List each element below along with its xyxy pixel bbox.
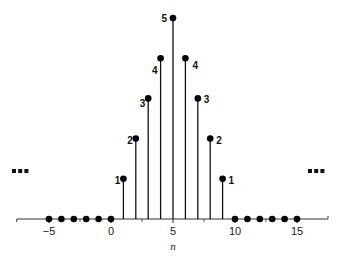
stem-marker	[257, 216, 264, 223]
x-axis-label: n	[170, 240, 176, 252]
value-label: 1	[229, 175, 235, 186]
stem-marker	[157, 55, 164, 62]
stem-marker	[133, 135, 140, 142]
x-tick-label: −5	[43, 225, 56, 237]
stem-marker	[269, 216, 276, 223]
stem-marker	[294, 216, 301, 223]
stem-marker	[195, 95, 202, 102]
stem-marker	[95, 216, 102, 223]
stem-marker	[108, 216, 115, 223]
ellipsis-dot	[18, 169, 22, 173]
stems	[46, 15, 301, 223]
stem-plot: −5051015 123454321 n	[0, 0, 338, 261]
stem-marker	[58, 216, 65, 223]
ellipsis-dot	[308, 169, 312, 173]
stem-marker	[244, 216, 251, 223]
stem-marker	[170, 15, 177, 22]
value-label: 3	[204, 94, 210, 105]
x-tick-label: 10	[229, 225, 241, 237]
stem-marker	[120, 176, 127, 183]
continuation-ellipses	[12, 169, 324, 173]
ellipsis-dot	[12, 169, 16, 173]
stem-marker	[182, 55, 189, 62]
x-tick-label: 5	[170, 225, 176, 237]
ellipsis-dot	[320, 169, 324, 173]
stem-marker	[232, 216, 239, 223]
stem-marker	[207, 135, 214, 142]
x-tick-label: 15	[291, 225, 303, 237]
stem-marker	[145, 95, 152, 102]
stem-marker	[46, 216, 53, 223]
ellipsis-dot	[314, 169, 318, 173]
left-ellipsis	[12, 169, 28, 173]
stem-marker	[219, 176, 226, 183]
value-label: 4	[152, 65, 158, 76]
value-label: 4	[192, 60, 198, 71]
value-label: 1	[115, 175, 121, 186]
value-label: 3	[140, 98, 146, 109]
value-label: 5	[161, 13, 167, 24]
right-ellipsis	[308, 169, 324, 173]
stem-marker	[83, 216, 90, 223]
value-label: 2	[127, 135, 133, 146]
value-labels: 123454321	[115, 13, 235, 186]
ellipsis-dot	[24, 169, 28, 173]
x-tick-label: 0	[108, 225, 114, 237]
stem-marker	[71, 216, 78, 223]
value-label: 2	[216, 135, 222, 146]
stem-marker	[281, 216, 288, 223]
